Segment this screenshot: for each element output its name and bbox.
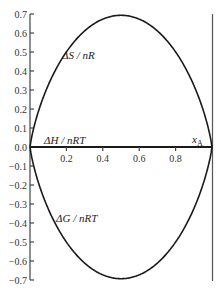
x-tick-label: 0.6 <box>133 153 146 164</box>
curve-delta-s <box>30 15 212 147</box>
x-axis: 0.20.40.60.8 <box>30 147 212 164</box>
label-delta-g: ΔG / nRT <box>55 212 98 224</box>
mixing-functions-chart: 0.70.60.50.40.30.20.10.0−0.1−0.2−0.3−0.4… <box>0 0 219 288</box>
y-tick-label: 0.6 <box>15 28 28 39</box>
y-tick-label: 0.0 <box>15 142 28 153</box>
y-tick-label: 0.1 <box>15 123 28 134</box>
y-tick-label: −0.1 <box>9 161 27 172</box>
y-tick-label: 0.4 <box>15 66 28 77</box>
y-tick-label: −0.7 <box>9 275 27 286</box>
y-tick-label: 0.3 <box>15 85 28 96</box>
y-tick-label: −0.3 <box>9 199 27 210</box>
label-delta-s: ΔS / nR <box>61 49 95 61</box>
y-tick-label: −0.5 <box>9 237 27 248</box>
x-tick-label: 0.4 <box>97 153 110 164</box>
x-tick-label: 0.8 <box>169 153 182 164</box>
y-tick-label: 0.7 <box>15 9 28 20</box>
y-tick-label: −0.2 <box>9 180 27 191</box>
y-tick-label: 0.5 <box>15 47 28 58</box>
y-tick-label: −0.4 <box>9 218 27 229</box>
y-tick-label: −0.6 <box>9 256 27 267</box>
y-tick-label: 0.2 <box>15 104 28 115</box>
label-x-axis: xA <box>191 133 203 148</box>
x-tick-label: 0.2 <box>60 153 73 164</box>
label-delta-h: ΔH / nRT <box>43 134 86 146</box>
